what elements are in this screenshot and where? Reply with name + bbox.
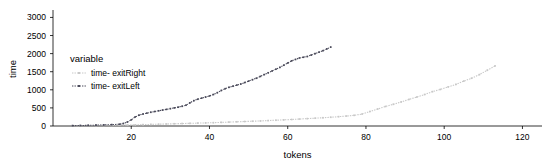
x-axis-title: tokens <box>284 149 312 160</box>
data-point <box>177 106 179 108</box>
y-tick-label: 1500 <box>27 67 46 77</box>
data-point <box>193 100 195 102</box>
y-tick-label: 500 <box>32 103 46 113</box>
data-point <box>432 91 434 93</box>
data-point <box>181 105 183 107</box>
data-point <box>330 116 332 118</box>
data-point <box>361 113 363 115</box>
data-point <box>103 124 105 126</box>
data-point <box>447 86 449 88</box>
data-point <box>173 107 175 109</box>
data-point <box>170 108 172 110</box>
data-point <box>216 92 218 94</box>
data-point <box>479 74 481 76</box>
data-point <box>256 77 258 79</box>
data-point <box>134 124 136 126</box>
x-axis: 20406080100120 tokens <box>53 126 542 160</box>
legend-marker-icon <box>78 85 80 87</box>
data-point <box>322 50 324 52</box>
data-point <box>185 104 187 106</box>
data-point <box>220 122 222 124</box>
data-point <box>408 99 410 101</box>
legend-entry[interactable]: time- exitRight <box>72 68 146 78</box>
data-point <box>275 119 277 121</box>
data-point <box>439 89 441 91</box>
data-point <box>306 56 308 58</box>
data-point <box>189 102 191 104</box>
line-chart: 050010001500200025003000 time 2040608010… <box>0 0 548 167</box>
x-tick-label: 60 <box>283 132 293 142</box>
data-point <box>232 85 234 87</box>
data-point <box>236 121 238 123</box>
data-point <box>252 120 254 122</box>
data-point <box>299 57 301 59</box>
data-point <box>400 101 402 103</box>
legend-entry[interactable]: time- exitLeft <box>72 81 140 91</box>
x-tick-label: 120 <box>515 132 529 142</box>
data-point <box>224 88 226 90</box>
data-point <box>303 56 305 58</box>
y-tick-label: 0 <box>41 121 46 131</box>
chart-legend: variable time- exitRighttime- exitLeft <box>70 53 146 91</box>
data-point <box>150 124 152 126</box>
data-point <box>275 68 277 70</box>
data-point <box>158 110 160 112</box>
data-point <box>166 109 168 111</box>
data-point <box>244 121 246 123</box>
data-point <box>295 59 297 61</box>
data-point <box>213 94 215 96</box>
data-point <box>209 95 211 97</box>
data-point <box>240 83 242 85</box>
y-tick-label: 2000 <box>27 49 46 59</box>
y-tick-label: 2500 <box>27 31 46 41</box>
data-point <box>158 123 160 125</box>
y-tick-label: 1000 <box>27 85 46 95</box>
chart-container: 050010001500200025003000 time 2040608010… <box>0 0 548 167</box>
data-point <box>228 86 230 88</box>
data-point <box>369 111 371 113</box>
legend-title: variable <box>70 53 103 64</box>
data-point <box>142 124 144 126</box>
data-point <box>138 114 140 116</box>
data-point <box>252 79 254 81</box>
data-point <box>455 84 457 86</box>
data-point <box>283 119 285 121</box>
data-point <box>80 125 82 127</box>
data-point <box>322 117 324 119</box>
data-point <box>287 62 289 64</box>
data-point <box>306 118 308 120</box>
data-point <box>259 76 261 78</box>
data-point <box>87 125 89 127</box>
x-tick-label: 100 <box>437 132 451 142</box>
data-point <box>134 116 136 118</box>
data-point <box>197 122 199 124</box>
legend-marker-icon <box>78 72 80 74</box>
data-point <box>263 74 265 76</box>
data-point <box>318 51 320 53</box>
data-point <box>326 48 328 50</box>
data-point <box>181 123 183 125</box>
y-tick-group: 050010001500200025003000 <box>27 12 53 131</box>
data-point <box>111 124 113 126</box>
data-point <box>494 65 496 67</box>
data-point <box>377 108 379 110</box>
data-point <box>279 67 281 69</box>
data-point <box>299 118 301 120</box>
legend-label: time- exitRight <box>91 68 146 78</box>
x-tick-label: 20 <box>127 132 137 142</box>
data-point <box>463 80 465 82</box>
data-point <box>95 124 97 126</box>
data-point <box>205 122 207 124</box>
data-point <box>353 114 355 116</box>
data-point <box>123 123 125 125</box>
data-point <box>338 116 340 118</box>
legend-entries: time- exitRighttime- exitLeft <box>72 68 146 91</box>
data-point <box>244 82 246 84</box>
data-point <box>173 123 175 125</box>
data-point <box>154 111 156 113</box>
y-axis-title: time <box>7 60 18 78</box>
data-point <box>205 96 207 98</box>
data-point <box>126 121 128 123</box>
x-tick-label: 80 <box>361 132 371 142</box>
data-point <box>424 94 426 96</box>
